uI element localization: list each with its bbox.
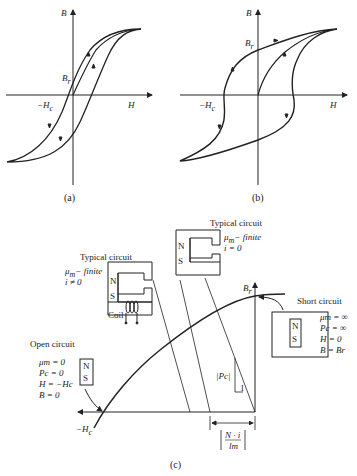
short-circuit-line-1: μm = ∞	[320, 312, 348, 322]
coil-label: Coil	[108, 310, 124, 320]
br-sub: r	[68, 77, 71, 86]
short-circuit-line-4: B = Br	[320, 345, 345, 355]
typical-circuit-gap-current: i = 0	[224, 243, 242, 253]
open-circuit-line-4: B = 0	[39, 390, 60, 400]
hc-sub: c	[212, 104, 216, 113]
open-circuit-title: Open circuit	[30, 339, 75, 349]
panel-b-hysteresis	[180, 10, 347, 185]
offset-denominator: lm	[229, 441, 238, 451]
open-circuit-pointer	[85, 389, 102, 411]
panel-c-hc-label: −Hc	[76, 424, 92, 437]
open-circuit-n: N	[83, 361, 90, 371]
hc-text: −H	[199, 100, 212, 110]
open-circuit-line-3: H = −Hc	[39, 379, 73, 389]
open-circuit-s: S	[83, 373, 88, 383]
typical-circuit-coil-current: i ≠ 0	[65, 277, 81, 287]
panel-b-caption: (b)	[252, 192, 264, 203]
short-circuit-line-2: Pc = ∞	[320, 323, 346, 333]
offset-numerator: N · i	[225, 430, 240, 440]
panel-c-caption: (c)	[170, 459, 181, 470]
hc-text: −H	[76, 424, 89, 434]
open-circuit-line-2: Pc = 0	[39, 368, 64, 378]
panel-c-br-label: Br	[243, 283, 252, 296]
panel-c-operating-point	[78, 230, 328, 450]
panel-a-caption: (a)	[64, 192, 75, 203]
panel-a-hc-label: −Hc	[37, 100, 53, 113]
mu-rest: − finite	[75, 266, 102, 276]
short-circuit-pointer	[259, 297, 283, 310]
panel-a-axis-x-label: H	[128, 100, 135, 110]
typical-circuit-coil-n: N	[110, 276, 117, 286]
typical-circuit-gap-drawing	[176, 230, 220, 275]
hc-sub: c	[89, 428, 93, 437]
typical-circuit-gap-s: S	[178, 256, 183, 266]
panel-b-axis-x-label: H	[330, 100, 337, 110]
open-circuit-line-1: μm = 0	[39, 357, 65, 367]
mu-rest: − finite	[234, 232, 261, 242]
hc-sub: c	[50, 104, 54, 113]
diagram-canvas	[0, 0, 357, 476]
panel-b-axis-y-label: B	[246, 8, 252, 18]
panel-a-hysteresis	[6, 10, 152, 185]
panel-a-br-label: Br	[62, 73, 71, 86]
slope-unit: 1	[240, 383, 245, 393]
panel-b-br-label: Br	[245, 38, 254, 51]
panel-b-hc-label: −Hc	[199, 100, 215, 113]
slope-label: |Pc|	[216, 371, 230, 381]
short-circuit-line-3: H = 0	[320, 334, 342, 344]
typical-circuit-gap-title: Typical circuit	[210, 218, 262, 228]
hc-text: −H	[37, 100, 50, 110]
short-circuit-title: Short circuit	[297, 296, 342, 306]
br-sub: r	[251, 42, 254, 51]
typical-circuit-coil-s: S	[110, 291, 115, 301]
short-circuit-s: S	[292, 334, 297, 344]
typical-circuit-gap-n: N	[178, 241, 185, 251]
panel-a-axis-y-label: B	[61, 8, 67, 18]
panel-b-initial-curve	[258, 29, 337, 95]
br-sub: r	[249, 287, 252, 296]
typical-circuit-coil-title: Typical circuit	[80, 252, 132, 262]
short-circuit-n: N	[292, 321, 299, 331]
